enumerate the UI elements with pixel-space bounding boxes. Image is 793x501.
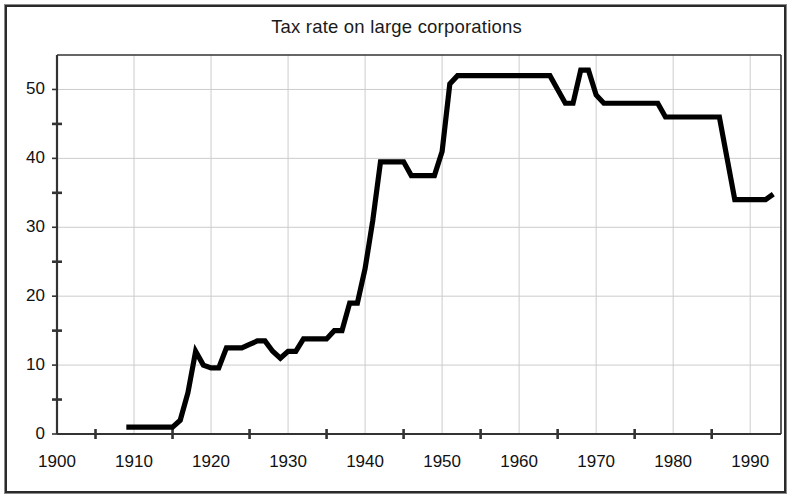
- x-tick-label: 1900: [25, 453, 89, 470]
- x-tick-label: 1940: [333, 453, 397, 470]
- y-tick-label: 0: [3, 425, 45, 442]
- y-tick-label: 40: [3, 149, 45, 166]
- x-tick-label: 1950: [410, 453, 474, 470]
- x-tick-label: 1990: [718, 453, 782, 470]
- x-tick-label: 1960: [487, 453, 551, 470]
- data-series-line: [126, 70, 773, 427]
- x-tick-label: 1980: [641, 453, 705, 470]
- axis-lines: [57, 55, 781, 434]
- x-tick-label: 1930: [256, 453, 320, 470]
- y-tick-label: 30: [3, 218, 45, 235]
- gridlines-vertical: [134, 55, 750, 434]
- y-tick-label: 10: [3, 356, 45, 373]
- screenshot-root: Tax rate on large corporations 010203040…: [0, 0, 793, 501]
- plot-area: 01020304050 1900191019201930194019501960…: [0, 0, 793, 501]
- chart-svg: [0, 0, 793, 501]
- x-tick-label: 1910: [102, 453, 166, 470]
- gridlines-horizontal: [57, 89, 781, 365]
- x-tick-label: 1970: [564, 453, 628, 470]
- x-tick-label: 1920: [179, 453, 243, 470]
- axis-ticks: [52, 89, 712, 439]
- y-tick-label: 50: [3, 80, 45, 97]
- y-tick-label: 20: [3, 287, 45, 304]
